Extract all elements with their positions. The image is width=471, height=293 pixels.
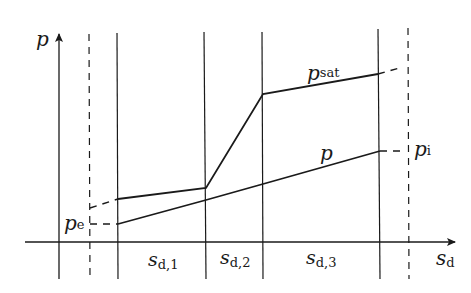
partial-curve-label: p <box>320 141 333 165</box>
partial-pressure-curve <box>118 151 380 224</box>
pressure-diagram: p sd psat p pe pi sd,1 sd,2 sd,3 <box>0 0 471 293</box>
exterior-pressure-label: pe <box>64 211 85 235</box>
saturation-pressure-curve <box>118 74 378 199</box>
interior-pressure-label: pi <box>414 137 431 161</box>
y-axis-label: p <box>36 27 49 51</box>
layer-1-label: sd,1 <box>148 248 179 272</box>
x-axis-label: sd <box>436 246 455 270</box>
saturation-interior-dashed <box>378 67 403 74</box>
saturation-exterior-dashed <box>90 199 118 208</box>
layer-3-label: sd,3 <box>306 246 337 270</box>
layer-2-label: sd,2 <box>220 246 251 270</box>
